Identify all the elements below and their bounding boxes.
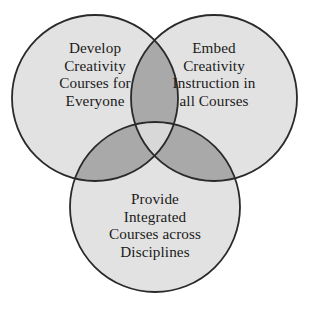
venn-diagram: Develop Creativity Courses for Everyone …	[0, 0, 309, 310]
venn-circles-graphic	[0, 0, 309, 310]
